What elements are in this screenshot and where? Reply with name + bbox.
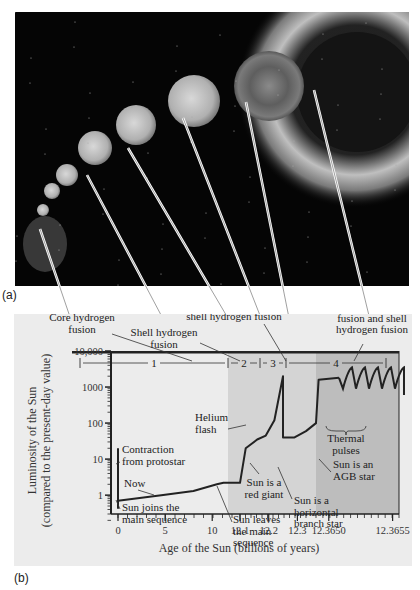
annotation-horizontal-branch: branch star — [294, 517, 343, 529]
annotation-leaves-ms: sequence — [233, 536, 273, 548]
phase-number-3: 3 — [270, 357, 276, 369]
annotation-joins-ms: Sun joins the — [122, 501, 180, 513]
annotation-red-giant: red giant — [245, 488, 284, 500]
annotation-red-giant: Sun is a — [247, 476, 282, 488]
y-tick-label: 1000 — [82, 382, 103, 393]
y-axis-label: Luminosity of the Sun — [25, 387, 39, 495]
y-tick-label: 1 — [98, 490, 103, 501]
x-tick-label: 5 — [162, 525, 167, 536]
phase-label-3: shell hydrogen fusion — [186, 314, 282, 322]
annotation-leaves-ms: Sun leaves — [233, 513, 280, 525]
y-tick-label: 100 — [87, 418, 103, 429]
chart-panel: 1234 110100100010,000Luminosity of the S… — [14, 314, 412, 566]
annotation-helium-flash: flash — [195, 423, 217, 435]
phase-label-2: fusion — [150, 338, 178, 350]
x-tick-label: 12.3655 — [376, 525, 410, 536]
annotation-now: Now — [124, 477, 145, 489]
annotation-thermal-pulses: pulses — [332, 444, 360, 456]
y-tick-label: 10 — [93, 454, 104, 465]
annotation-agb: AGB star — [333, 470, 375, 482]
phase-number-4: 4 — [333, 357, 339, 369]
phase-number-1: 1 — [151, 357, 157, 369]
annotation-leaves-ms: the main — [233, 525, 272, 537]
x-tick-label: 10 — [207, 525, 218, 536]
phase-label-1: fusion — [68, 323, 96, 335]
phase-label-4: hydrogen fusion — [336, 323, 408, 335]
annotation-horizontal-branch: horizontal — [294, 506, 339, 518]
y-axis-label-2: (compared to the present-day value) — [39, 354, 53, 527]
annotation-horizontal-branch: Sun is a — [294, 494, 329, 506]
chart-top-border — [72, 351, 399, 354]
leader-lines — [0, 0, 420, 340]
y-tick-label: 10,000 — [74, 346, 103, 357]
phase-number-2: 2 — [241, 357, 247, 369]
phase-label-2: Shell hydrogen — [131, 326, 198, 338]
annotation-helium-flash: Helium — [195, 411, 228, 423]
photo-leader-line-6 — [314, 90, 372, 328]
x-tick-label: 0 — [115, 525, 120, 536]
annotation-agb: Sun is an — [333, 458, 374, 470]
photo-leader-line-3 — [128, 148, 232, 325]
annotation-contraction: from protostar — [122, 455, 186, 467]
annotation-leader-now — [138, 490, 154, 495]
luminosity-chart: 1234 110100100010,000Luminosity of the S… — [14, 314, 412, 566]
annotation-contraction: Contraction — [122, 443, 174, 455]
annotation-joins-ms: main sequence — [122, 513, 187, 525]
panel-b-label: (b) — [14, 571, 29, 585]
